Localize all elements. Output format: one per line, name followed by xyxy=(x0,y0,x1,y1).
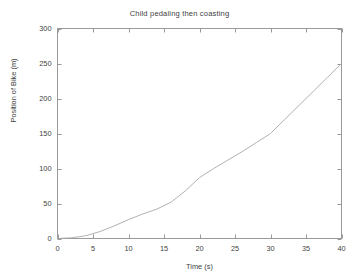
x-tick-label: 0 xyxy=(46,244,70,253)
x-tick-label: 25 xyxy=(223,244,247,253)
x-tick-label: 15 xyxy=(152,244,176,253)
y-tick-label: 150 xyxy=(18,129,52,138)
data-series-group xyxy=(58,64,342,239)
y-tick-label: 0 xyxy=(18,234,52,243)
y-tick-label: 250 xyxy=(18,59,52,68)
y-tick-marks xyxy=(58,30,342,240)
y-tick-label: 200 xyxy=(18,94,52,103)
chart-figure: Child pedaling then coasting Position of… xyxy=(0,0,359,278)
x-tick-label: 30 xyxy=(259,244,283,253)
x-tick-label: 40 xyxy=(330,244,354,253)
x-tick-marks xyxy=(59,29,343,239)
plot-frame xyxy=(58,29,342,239)
y-tick-label: 50 xyxy=(18,199,52,208)
x-tick-label: 10 xyxy=(117,244,141,253)
y-tick-label: 100 xyxy=(18,164,52,173)
x-tick-label: 20 xyxy=(188,244,212,253)
data-series-line xyxy=(58,64,342,239)
x-tick-label: 35 xyxy=(294,244,318,253)
y-tick-label: 300 xyxy=(18,24,52,33)
plot-area xyxy=(0,0,359,278)
x-tick-label: 5 xyxy=(81,244,105,253)
plot-frame-rect xyxy=(58,29,342,239)
